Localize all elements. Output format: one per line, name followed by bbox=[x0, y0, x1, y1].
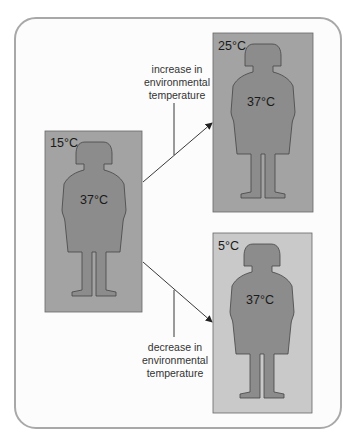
increase-arrow bbox=[143, 123, 212, 182]
decrease-arrow bbox=[143, 262, 212, 322]
panel-25c: 25°C 37°C bbox=[213, 33, 313, 212]
thermoregulation-diagram: 15°C 37°C 25°C 37°C 5°C 37°C increase in… bbox=[0, 0, 349, 437]
decrease-caption-3: temperature bbox=[147, 367, 204, 379]
panel-15c: 15°C 37°C bbox=[45, 131, 142, 312]
increase-caption-2: environmental bbox=[144, 76, 210, 88]
ambient-temp-label: 25°C bbox=[218, 39, 246, 53]
panel-5c: 5°C 37°C bbox=[213, 233, 312, 413]
increase-caption-1: increase in bbox=[152, 63, 203, 75]
body-temp-label: 37°C bbox=[80, 193, 108, 207]
decrease-caption-2: environmental bbox=[142, 354, 208, 366]
increase-caption-3: temperature bbox=[149, 89, 206, 101]
body-temp-label: 37°C bbox=[246, 293, 274, 307]
ambient-temp-label: 15°C bbox=[50, 136, 78, 150]
decrease-caption-1: decrease in bbox=[148, 341, 202, 353]
ambient-temp-label: 5°C bbox=[218, 239, 239, 253]
body-temp-label: 37°C bbox=[247, 95, 275, 109]
